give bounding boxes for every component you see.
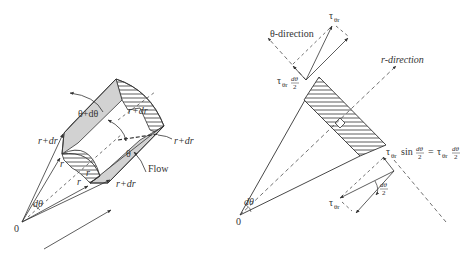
half-angle-label: dθ 2	[380, 181, 388, 197]
right-origin-label: 0	[236, 216, 241, 227]
left-figure: 0 dθ r+dr r r r θ+dθ r+dr r+dr r+dr θ Fl…	[14, 79, 194, 249]
svg-text:2: 2	[382, 189, 386, 197]
tau-top-label: τ θr	[329, 10, 340, 24]
theta-plus-dtheta-label: θ+dθ	[78, 108, 98, 119]
svg-text:sin: sin	[401, 146, 413, 157]
svg-text:=: =	[428, 146, 434, 157]
r-plus-dr-bottom-label: r+dr	[116, 178, 136, 189]
svg-text:dθ: dθ	[380, 181, 388, 189]
left-origin-label: 0	[14, 223, 19, 234]
svg-text:θr: θr	[391, 152, 397, 160]
flow-label: Flow	[148, 163, 169, 174]
r-plus-dr-top-label: r+dr	[128, 105, 148, 116]
r-direction-label: r-direction	[381, 54, 424, 65]
svg-text:dθ: dθ	[452, 145, 460, 153]
right-figure: 0 dθ θ-direction r-direction τ θr τ θr d…	[236, 10, 460, 227]
r-bottom-label: r	[77, 176, 81, 187]
svg-text:θr: θr	[442, 152, 448, 160]
tau-left-label: τ θr dθ 2	[277, 75, 299, 91]
svg-text:τ: τ	[437, 146, 441, 157]
svg-text:τ: τ	[386, 146, 390, 157]
diagram-canvas: 0 dθ r+dr r r r θ+dθ r+dr r+dr r+dr θ Fl…	[0, 0, 475, 255]
svg-text:τ: τ	[277, 75, 281, 86]
svg-text:θr: θr	[282, 81, 288, 89]
svg-text:dθ: dθ	[416, 145, 424, 153]
right-dtheta-label: dθ	[244, 196, 254, 207]
r-left-label: r	[60, 158, 64, 169]
theta-direction-label: θ-direction	[270, 28, 314, 39]
svg-text:2: 2	[418, 153, 422, 161]
r-inner-label: r	[86, 167, 90, 178]
tau-bottom-label: τ θr	[329, 197, 340, 211]
hatched-element	[304, 77, 386, 156]
theta-label: θ	[126, 148, 131, 159]
svg-text:dθ: dθ	[291, 75, 299, 83]
svg-text:2: 2	[293, 83, 297, 91]
svg-text:τ: τ	[329, 10, 333, 21]
svg-text:τ: τ	[329, 197, 333, 208]
svg-text:2: 2	[454, 153, 458, 161]
r-plus-dr-left-label: r+dr	[38, 135, 58, 146]
shear-equation-label: τ θr sin dθ 2 = τ θr dθ 2	[386, 145, 460, 161]
r-plus-dr-right-label: r+dr	[174, 135, 194, 146]
svg-text:θr: θr	[334, 16, 340, 24]
left-dtheta-label: dθ	[33, 198, 43, 209]
svg-text:θr: θr	[334, 203, 340, 211]
